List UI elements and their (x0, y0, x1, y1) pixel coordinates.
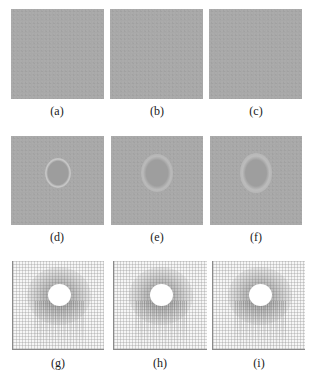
panel-a-caption: (a) (37, 104, 77, 118)
panel-b-image (110, 9, 203, 99)
panel-e-caption: (e) (137, 230, 177, 244)
hole (150, 284, 173, 306)
panel-a-image (11, 9, 104, 99)
panel-f-image (210, 136, 302, 225)
panel-f-caption: (f) (236, 230, 276, 244)
panel-i-image (212, 261, 305, 350)
panel-h-image (113, 261, 207, 350)
halo-ring (141, 154, 173, 192)
halo-ring (45, 158, 71, 188)
panel-h-caption: (h) (140, 356, 180, 370)
panel-i-caption: (i) (239, 356, 279, 370)
panel-g-image (12, 261, 104, 350)
panel-d-caption: (d) (37, 230, 77, 244)
panel-b-caption: (b) (137, 104, 177, 118)
hole (48, 284, 71, 306)
hole (249, 284, 272, 306)
panel-d-image (11, 136, 104, 225)
halo-ring (240, 153, 272, 193)
panel-g-caption: (g) (38, 356, 78, 370)
panel-c-caption: (c) (236, 104, 276, 118)
panel-e-image (111, 136, 203, 225)
panel-c-image (209, 9, 302, 99)
